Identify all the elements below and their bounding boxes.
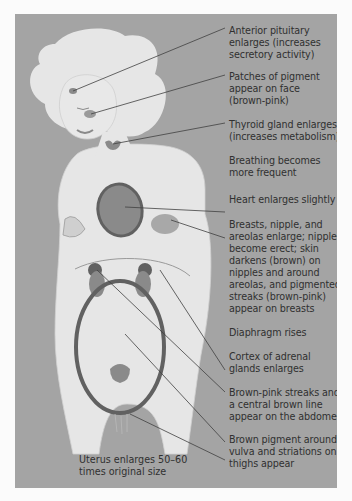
label-line: Patches of pigment: [229, 71, 337, 83]
label-line: Heart enlarges slightly: [229, 194, 337, 206]
label-line: Brown pigment around: [229, 434, 337, 446]
label-abdomen: Brown-pink streaks and a central brown l…: [229, 387, 337, 423]
label-line: become erect; skin: [229, 243, 337, 255]
label-line: secretory activity): [229, 49, 337, 61]
label-line: a central brown line: [229, 399, 337, 411]
label-line: areolas, and pigmented: [229, 279, 337, 291]
label-line: Diaphragm rises: [229, 327, 337, 339]
label-line: appear on the abdomen: [229, 411, 337, 423]
label-line: enlarges (increases: [229, 37, 337, 49]
label-line: Brown-pink streaks and: [229, 387, 337, 399]
label-line: thighs appear: [229, 458, 337, 470]
label-line: areolas enlarge; nipples: [229, 231, 337, 243]
label-line: nipples and around: [229, 267, 337, 279]
label-line: appear on face: [229, 83, 337, 95]
label-line: (brown-pink): [229, 95, 337, 107]
label-face-pigment: Patches of pigment appear on face (brown…: [229, 71, 337, 107]
label-thyroid: Thyroid gland enlarges (increases metabo…: [229, 119, 337, 143]
label-line: darkens (brown) on: [229, 255, 337, 267]
breast-right-areola: [151, 214, 179, 234]
label-line: streaks (brown-pink): [229, 291, 337, 303]
label-line: glands enlarges: [229, 363, 337, 375]
face-shape: [59, 75, 116, 139]
label-line: Cortex of adrenal: [229, 351, 337, 363]
label-diaphragm: Diaphragm rises: [229, 327, 337, 339]
label-adrenal: Cortex of adrenal glands enlarges: [229, 351, 337, 375]
diagram-panel: Anterior pituitary enlarges (increases s…: [15, 14, 337, 488]
label-line: vulva and striations on: [229, 446, 337, 458]
label-line: Breathing becomes: [229, 155, 337, 167]
face-pigment-patch: [84, 110, 96, 118]
label-line: (increases metabolism): [229, 131, 337, 143]
label-breasts: Breasts, nipple, and areolas enlarge; ni…: [229, 219, 337, 315]
caption-line: Uterus enlarges 50–60: [79, 454, 187, 466]
label-line: appear on breasts: [229, 303, 337, 315]
label-heart: Heart enlarges slightly: [229, 194, 337, 206]
label-line: more frequent: [229, 167, 337, 179]
vulva-striations: [115, 414, 127, 434]
label-vulva: Brown pigment around vulva and striation…: [229, 434, 337, 470]
label-line: Anterior pituitary: [229, 25, 337, 37]
label-breathing: Breathing becomes more frequent: [229, 155, 337, 179]
label-line: Breasts, nipple, and: [229, 219, 337, 231]
label-line: Thyroid gland enlarges: [229, 119, 337, 131]
uterus-caption: Uterus enlarges 50–60 times original siz…: [79, 454, 187, 478]
label-anterior-pituitary: Anterior pituitary enlarges (increases s…: [229, 25, 337, 61]
caption-line: times original size: [79, 466, 187, 478]
